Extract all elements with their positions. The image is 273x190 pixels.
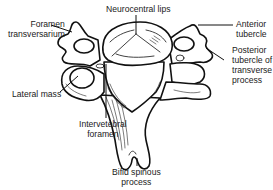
label-neurocentral-lips: Neurocentral lips — [106, 4, 170, 14]
left-lateral-mass-shape — [62, 66, 104, 101]
label-anterior-tubercle: Anterior tubercle — [236, 19, 267, 39]
right-transverse-process-shape — [168, 25, 212, 65]
label-intervertebral-foramen: Intervetebral foramen — [79, 119, 127, 139]
right-lateral-mass-shape — [160, 63, 211, 100]
label-foramen-transversarium: Foramen transversarium — [8, 19, 65, 39]
label-lateral-mass: Lateral mass — [12, 89, 61, 99]
cervical-vertebra-diagram: Neurocentral lips Foramen transversarium… — [0, 0, 273, 190]
vertebral-body-shape — [103, 22, 172, 65]
label-bifid-spinous-process: Bifid spinous process — [112, 167, 161, 187]
label-posterior-tubercle: Posterior tubercle of transverse process — [232, 45, 272, 85]
